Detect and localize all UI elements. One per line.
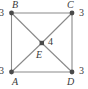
node-label-D: D	[67, 77, 74, 87]
node-label-E: E	[36, 50, 42, 60]
node-D	[70, 70, 75, 75]
degree-label-E: 4	[48, 37, 53, 47]
degree-label-D: 3	[79, 66, 84, 76]
node-B	[9, 11, 14, 16]
edge-B-E	[12, 13, 42, 43]
graph-figure: B C A D E 3 3 3 3 4	[0, 0, 88, 89]
node-label-C: C	[67, 0, 74, 10]
degree-label-B: 3	[0, 8, 4, 18]
node-E	[40, 41, 44, 45]
degree-label-C: 3	[79, 8, 84, 18]
edge-D-E	[42, 43, 72, 72]
node-A	[9, 70, 14, 75]
node-label-B: B	[12, 0, 18, 10]
degree-label-A: 3	[0, 66, 4, 76]
node-C	[70, 11, 75, 16]
edge-C-E	[42, 13, 72, 43]
node-label-A: A	[12, 77, 18, 87]
